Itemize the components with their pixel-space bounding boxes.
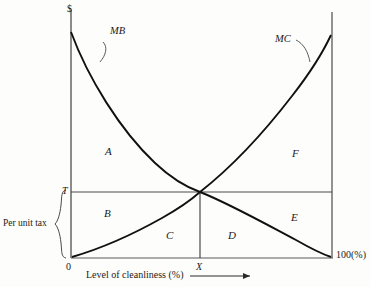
economics-diagram: $ MB MC A B C D E F T 0 X 100(%) Per uni…: [0, 0, 371, 287]
x-axis-arrow-head: [243, 273, 250, 279]
region-label-c: C: [166, 230, 173, 241]
mb-curve-label: MB: [110, 26, 125, 37]
per-unit-tax-label: Per unit tax: [3, 219, 47, 229]
region-label-d: D: [228, 230, 236, 241]
x-point-tick-label: X: [196, 262, 202, 272]
region-label-a: A: [105, 146, 112, 157]
y-axis-dollar-symbol: $: [67, 4, 72, 14]
mb-curve-lower: [200, 192, 331, 257]
region-label-e: E: [291, 212, 298, 223]
mb-leader-line: [100, 42, 106, 62]
x-max-tick-label: 100(%): [336, 250, 366, 260]
mc-curve-label: MC: [275, 34, 291, 45]
mc-curve-lower: [72, 192, 200, 257]
diagram-canvas: [0, 0, 371, 287]
region-label-b: B: [104, 208, 111, 219]
mb-curve: [71, 32, 200, 192]
region-label-f: F: [292, 148, 299, 159]
x-axis-title: Level of cleanliness (%): [86, 270, 183, 280]
mc-leader-line: [296, 40, 310, 62]
mc-curve: [200, 35, 331, 192]
origin-tick-label: 0: [66, 262, 71, 272]
per-unit-tax-brace: [55, 190, 66, 258]
tax-level-tick-label: T: [62, 186, 68, 196]
